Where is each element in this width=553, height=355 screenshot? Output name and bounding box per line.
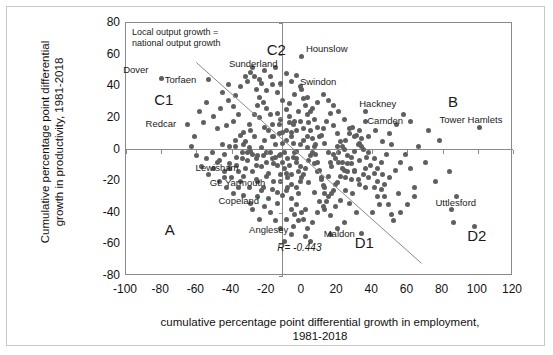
scatter-point xyxy=(306,180,311,185)
scatter-point xyxy=(185,122,190,127)
scatter-point xyxy=(289,232,294,237)
scatter-point xyxy=(245,150,250,155)
scatter-point xyxy=(315,100,320,105)
scatter-point xyxy=(284,188,289,193)
scatter-point xyxy=(380,172,385,177)
x-tick-label: -100 xyxy=(105,283,145,295)
scatter-point xyxy=(342,147,347,152)
scatter-point xyxy=(241,142,246,147)
scatter-point xyxy=(387,175,392,180)
scatter-point xyxy=(233,93,238,98)
x-tick-label: -80 xyxy=(140,283,180,295)
scatter-point xyxy=(329,164,334,169)
city-label-tower-hamlets: Tower Hamlets xyxy=(440,114,503,125)
scatter-point xyxy=(361,172,366,177)
scatter-point xyxy=(326,98,331,103)
scatter-point xyxy=(220,142,225,147)
scatter-point xyxy=(379,187,384,192)
scatter-point xyxy=(231,104,236,109)
scatter-point xyxy=(247,122,252,127)
x-tick-label: 0 xyxy=(281,283,321,295)
scatter-point xyxy=(215,126,220,131)
scatter-point xyxy=(259,164,264,169)
x-tick-label: -60 xyxy=(175,283,215,295)
x-axis-title-line2: 1981-2018 xyxy=(120,329,520,343)
scatter-point xyxy=(298,119,303,124)
scatter-point xyxy=(289,79,294,84)
scatter-point xyxy=(231,119,236,124)
scatter-point xyxy=(375,194,380,199)
scatter-point xyxy=(449,207,454,212)
scatter-point xyxy=(366,150,371,155)
scatter-point xyxy=(306,120,311,125)
scatter-point xyxy=(252,134,257,139)
x-tick-label: 100 xyxy=(457,283,497,295)
scatter-point xyxy=(301,126,306,131)
scatter-point xyxy=(226,98,231,103)
scatter-point xyxy=(405,202,410,207)
scatter-point xyxy=(451,220,456,225)
y-axis-tick xyxy=(279,23,283,24)
scatter-point xyxy=(298,142,303,147)
scatter-point xyxy=(270,187,275,192)
scatter-point xyxy=(328,160,333,165)
scatter-point xyxy=(252,112,257,117)
city-label-camden: Camden xyxy=(367,115,403,126)
scatter-point xyxy=(349,161,354,166)
y-axis-tick xyxy=(279,86,283,87)
scatter-point xyxy=(299,175,304,180)
x-axis-tick xyxy=(443,150,444,154)
scatter-point xyxy=(261,100,266,105)
scatter-point xyxy=(354,210,359,215)
chart-figure: Cumulative percentage point differential… xyxy=(0,0,553,355)
scatter-point xyxy=(238,133,243,138)
x-axis-zero-line xyxy=(126,149,513,150)
scatter-point xyxy=(275,201,280,206)
scatter-point xyxy=(433,179,438,184)
scatter-point xyxy=(210,150,215,155)
scatter-point xyxy=(296,169,301,174)
scatter-point xyxy=(305,226,310,231)
scatter-point xyxy=(347,201,352,206)
scatter-point xyxy=(382,182,387,187)
x-tick-label: -40 xyxy=(211,283,251,295)
scatter-point xyxy=(296,218,301,223)
scatter-point xyxy=(301,217,306,222)
scatter-point xyxy=(277,122,282,127)
quadrant-label-a: A xyxy=(165,222,175,238)
scatter-point xyxy=(289,196,294,201)
city-label-torfaen: Torfaen xyxy=(165,74,197,85)
city-label-copeland: Copeland xyxy=(218,195,259,206)
scatter-point xyxy=(303,166,308,171)
scatter-point xyxy=(268,112,273,117)
scatter-point xyxy=(294,128,299,133)
y-axis-tick xyxy=(279,244,283,245)
city-label-redcar: Redcar xyxy=(146,118,177,129)
reference-line-annotation: Local output growth = national output gr… xyxy=(132,27,221,49)
scatter-point xyxy=(266,196,271,201)
scatter-point xyxy=(257,217,262,222)
city-label-dover: Dover xyxy=(123,64,148,75)
scatter-point xyxy=(368,163,373,168)
scatter-point xyxy=(373,128,378,133)
scatter-point xyxy=(255,103,260,108)
scatter-point xyxy=(336,109,341,114)
scatter-point xyxy=(226,82,231,87)
x-axis-tick xyxy=(161,150,162,154)
scatter-point xyxy=(257,95,262,100)
scatter-point xyxy=(294,149,299,154)
scatter-point xyxy=(333,204,338,209)
x-axis-tick xyxy=(407,150,408,154)
scatter-point xyxy=(363,185,368,190)
scatter-point xyxy=(331,103,336,108)
scatter-point xyxy=(206,77,211,82)
y-axis-tick xyxy=(279,213,283,214)
correlation-label: R= -0.443 xyxy=(277,242,321,253)
scatter-point xyxy=(273,142,278,147)
scatter-point xyxy=(343,175,348,180)
scatter-point xyxy=(352,149,357,154)
scatter-point xyxy=(257,115,262,120)
x-axis-title-line1: cumulative percentage point differential… xyxy=(120,315,520,329)
x-axis-tick xyxy=(267,150,268,154)
x-axis-tick xyxy=(478,150,479,154)
